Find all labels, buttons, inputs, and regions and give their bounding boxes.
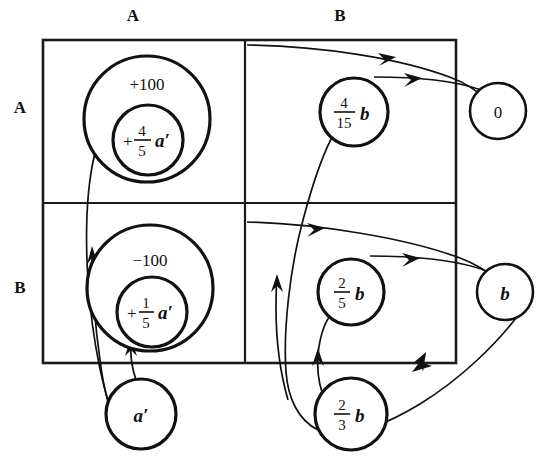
figure-canvas: A B A B <box>0 0 542 460</box>
column-header-B: B <box>334 6 345 25</box>
inner-circle-b-variable-a-prime: a′ <box>158 302 173 323</box>
arrow-b-to-2-3-b <box>372 318 516 428</box>
circle-2-3-b-variable: b <box>355 405 365 426</box>
circle-2-5-b-denominator: 5 <box>338 295 346 311</box>
node-zero[interactable]: 0 <box>470 83 526 139</box>
circle-2-3-b-numerator: 2 <box>338 397 346 413</box>
circle-a-prime-label: a′ <box>134 405 149 426</box>
state-transition-diagram: A B A B <box>0 0 542 460</box>
inner-circle-sign-plus: + <box>123 132 133 151</box>
circle-2-5-b-numerator: 2 <box>338 275 346 291</box>
node-b[interactable]: b <box>477 264 533 320</box>
outer-circle-plus-100-label: +100 <box>129 75 164 94</box>
column-header-A: A <box>127 6 140 25</box>
arrowhead-4-15-b-to-zero <box>404 73 422 87</box>
circle-2-5-b-shape <box>318 259 384 325</box>
inner-circle-b-denominator-5: 5 <box>142 315 150 331</box>
inner-circle-b-sign-plus: + <box>127 304 137 323</box>
arrow-2-5-b-stem <box>318 316 330 354</box>
inner-circle-numerator-4: 4 <box>138 123 146 139</box>
inner-circle-variable-a-prime: a′ <box>155 130 170 151</box>
circle-4-15-b-variable: b <box>360 103 370 124</box>
node-plus-4-5-a-prime[interactable]: + 4 5 a′ <box>113 105 183 175</box>
circle-2-5-b-variable: b <box>355 283 365 304</box>
circle-2-3-b-denominator: 3 <box>338 417 346 433</box>
node-2-3-b[interactable]: 2 3 b <box>315 378 387 450</box>
arrowhead-row-A-top <box>378 53 396 66</box>
circle-4-15-b-denominator: 15 <box>337 115 352 131</box>
circle-2-3-b-shape <box>315 378 387 450</box>
node-plus-1-5-a-prime[interactable]: + 1 5 a′ <box>117 277 187 347</box>
row-header-A: A <box>14 98 27 117</box>
outer-circle-minus-100-label: −100 <box>132 251 167 270</box>
row-header-B: B <box>14 278 25 297</box>
node-a-prime[interactable]: a′ <box>106 379 176 449</box>
node-2-5-b[interactable]: 2 5 b <box>318 259 384 325</box>
inner-circle-denominator-5: 5 <box>138 143 146 159</box>
circle-zero-label: 0 <box>494 103 503 122</box>
inner-circle-b-numerator-1: 1 <box>142 295 150 311</box>
node-4-15-b[interactable]: 4 15 b <box>320 78 388 146</box>
circle-b-label: b <box>500 283 510 304</box>
arrowhead-row-B-top <box>307 223 325 237</box>
circle-4-15-b-numerator: 4 <box>340 95 348 111</box>
arrowhead-2-5-b-to-b <box>402 253 420 267</box>
